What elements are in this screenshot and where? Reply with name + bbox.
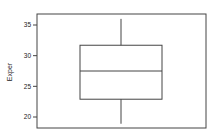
boxplot-chart: 20253035 Exper xyxy=(0,0,218,139)
y-tick-label: 35 xyxy=(24,21,32,28)
y-tick-label: 30 xyxy=(24,52,32,59)
y-tick-label: 20 xyxy=(24,113,32,120)
iqr-box xyxy=(80,45,162,99)
box-plot xyxy=(80,19,162,124)
y-axis-label: Exper xyxy=(6,62,14,81)
y-axis-ticks: 20253035 xyxy=(24,21,37,120)
y-tick-label: 25 xyxy=(24,83,32,90)
